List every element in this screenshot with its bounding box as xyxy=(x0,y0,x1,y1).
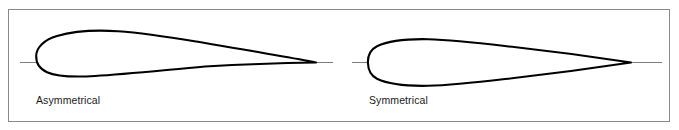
airfoil-figure: Asymmetrical Symmetrical xyxy=(0,0,679,130)
airfoil-cambered-icon xyxy=(36,31,316,77)
airfoil-label-symmetrical: Symmetrical xyxy=(369,95,428,106)
asymmetrical-airfoil-group xyxy=(20,31,333,77)
airfoil-label-asymmetrical: Asymmetrical xyxy=(36,95,100,106)
airfoil-symmetric-icon xyxy=(368,39,631,86)
airfoil-diagram-canvas xyxy=(0,0,679,130)
symmetrical-airfoil-group xyxy=(352,39,662,86)
